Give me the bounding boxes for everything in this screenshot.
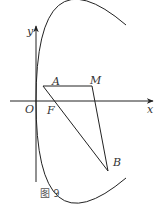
parabola-diagram: y x O A M F B 图 9 [0,0,165,210]
origin-label: O [25,103,34,116]
x-axis-label: x [147,103,154,116]
parabola-curve [36,0,126,203]
segment-mb [92,86,108,171]
point-m-label: M [89,74,102,87]
point-a-label: A [51,75,60,88]
point-b-label: B [112,156,121,169]
y-axis-label: y [26,25,34,38]
segment-ab [43,86,108,171]
point-f-label: F [46,104,55,117]
figure-caption: 图 9 [40,188,60,199]
